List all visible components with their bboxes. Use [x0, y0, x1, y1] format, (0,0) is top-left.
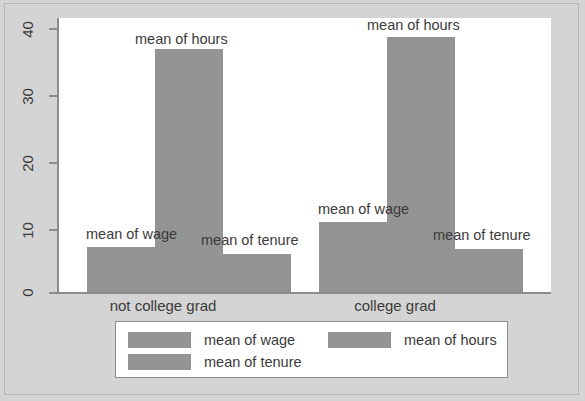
- bar-notcollegegrad-wage[interactable]: [87, 247, 155, 292]
- legend: mean of wage mean of hours mean of tenur…: [115, 321, 508, 378]
- y-axis-tick-label-20: 20: [19, 144, 36, 184]
- bar-annotation-notcollegegrad-wage: mean of wage: [86, 226, 177, 242]
- bar-notcollegegrad-hours[interactable]: [155, 49, 223, 292]
- bar-annotation-notcollegegrad-tenure: mean of tenure: [201, 232, 299, 248]
- legend-item-mean-of-wage[interactable]: mean of wage: [128, 332, 295, 348]
- bars-layer: [57, 18, 551, 292]
- bar-annotation-collegegrad-hours: mean of hours: [367, 17, 460, 33]
- legend-label-mean-of-tenure: mean of tenure: [204, 354, 302, 370]
- figure-frame: 40 30 20 10 0 mean of wage mean of hours…: [4, 3, 579, 395]
- bar-notcollegegrad-tenure[interactable]: [223, 254, 291, 292]
- bar-annotation-notcollegegrad-hours: mean of hours: [135, 31, 228, 47]
- legend-item-mean-of-tenure[interactable]: mean of tenure: [128, 354, 302, 370]
- legend-label-mean-of-hours: mean of hours: [404, 332, 497, 348]
- x-axis-label-college-grad: college grad: [300, 297, 490, 314]
- y-axis-tick-label-40: 40: [19, 10, 36, 50]
- bar-collegegrad-hours[interactable]: [387, 37, 455, 292]
- legend-label-mean-of-wage: mean of wage: [204, 332, 295, 348]
- chart-screenshot: 40 30 20 10 0 mean of wage mean of hours…: [0, 0, 585, 401]
- legend-swatch-mean-of-hours: [328, 332, 391, 348]
- bar-annotation-collegegrad-tenure: mean of tenure: [433, 227, 531, 243]
- y-axis-tick-label-0: 0: [19, 273, 36, 313]
- legend-swatch-mean-of-tenure: [128, 354, 191, 370]
- y-axis-tick-label-30: 30: [19, 77, 36, 117]
- x-axis-line: [57, 292, 551, 294]
- x-axis-label-not-college-grad: not college grad: [68, 297, 258, 314]
- y-axis-tick-label-10: 10: [19, 211, 36, 251]
- legend-item-mean-of-hours[interactable]: mean of hours: [328, 332, 497, 348]
- legend-swatch-mean-of-wage: [128, 332, 191, 348]
- bar-collegegrad-wage[interactable]: [319, 222, 387, 292]
- bar-collegegrad-tenure[interactable]: [455, 249, 523, 292]
- bar-annotation-collegegrad-wage: mean of wage: [318, 201, 409, 217]
